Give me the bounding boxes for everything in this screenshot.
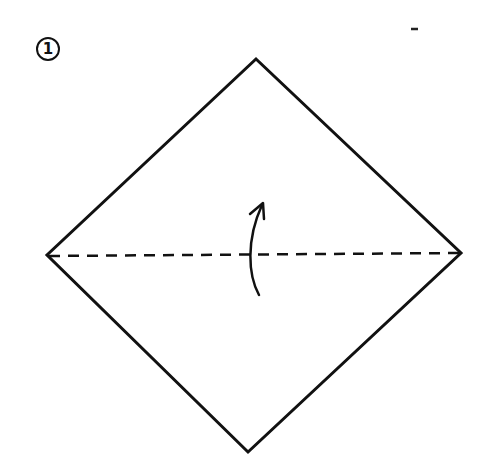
diagram-canvas [0,0,488,474]
valley-fold-line [49,253,459,256]
fold-arrow-icon [250,205,262,295]
